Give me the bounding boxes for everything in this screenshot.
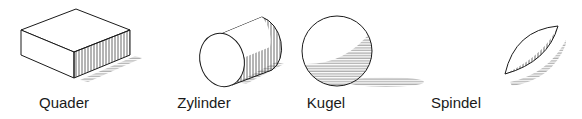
sphere-shape bbox=[300, 16, 424, 90]
cylinder-shape bbox=[194, 17, 284, 92]
label-kugel: Kugel bbox=[307, 94, 345, 111]
cuboid-shape bbox=[21, 9, 142, 82]
spindle-shape bbox=[505, 26, 566, 86]
label-spindel: Spindel bbox=[431, 94, 481, 111]
label-quader: Quader bbox=[39, 94, 89, 111]
label-zylinder: Zylinder bbox=[177, 94, 230, 111]
